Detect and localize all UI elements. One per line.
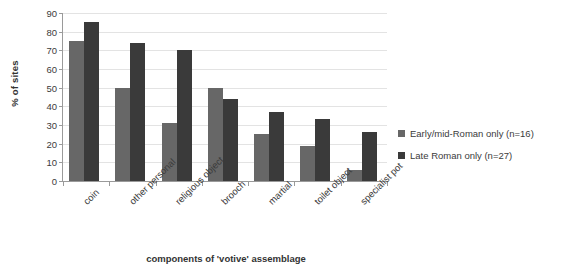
x-axis-label: brooch	[219, 178, 247, 206]
bar	[177, 50, 192, 181]
x-tick-mark	[63, 181, 64, 186]
plot-area: 0102030405060708090 coinother personalre…	[63, 13, 387, 181]
y-tick-label: 60	[46, 64, 57, 75]
legend-label: Late Roman only (n=27)	[410, 150, 512, 161]
y-tick-label: 30	[46, 120, 57, 131]
bar-group	[294, 13, 340, 181]
y-tick-label: 0	[52, 176, 57, 187]
bar-group	[109, 13, 155, 181]
y-tick-label: 50	[46, 82, 57, 93]
bar	[223, 99, 238, 181]
chart-legend: Early/mid-Roman only (n=16)Late Roman on…	[398, 128, 534, 172]
bar-group	[341, 13, 387, 181]
y-tick-label: 40	[46, 101, 57, 112]
bar-chart: % of sites 0102030405060708090 coinother…	[0, 0, 575, 274]
x-axis-label: martial	[266, 179, 294, 207]
legend-label: Early/mid-Roman only (n=16)	[410, 128, 534, 139]
bar	[300, 146, 315, 181]
y-tick-label: 20	[46, 138, 57, 149]
x-tick-mark	[109, 181, 110, 186]
bar	[254, 134, 269, 181]
y-tick-label: 80	[46, 26, 57, 37]
legend-item[interactable]: Early/mid-Roman only (n=16)	[398, 128, 534, 139]
bar-group	[248, 13, 294, 181]
legend-item[interactable]: Late Roman only (n=27)	[398, 150, 534, 161]
x-tick-mark	[294, 181, 295, 186]
bar	[362, 132, 377, 181]
bar	[130, 43, 145, 181]
y-axis-title: % of sites	[9, 39, 20, 129]
bar	[115, 88, 130, 181]
bar-group	[63, 13, 109, 181]
y-tick-label: 70	[46, 45, 57, 56]
bar	[269, 112, 284, 181]
y-tick-label: 90	[46, 8, 57, 19]
legend-swatch-icon	[398, 130, 405, 137]
y-tick-label: 10	[46, 157, 57, 168]
x-tick-mark	[248, 181, 249, 186]
bar-group	[202, 13, 248, 181]
x-axis-title: components of 'votive' assemblage	[0, 253, 452, 264]
bar	[84, 22, 99, 181]
x-axis-label: coin	[81, 187, 101, 207]
bar-group	[156, 13, 202, 181]
bar	[315, 119, 330, 181]
bar	[69, 41, 84, 181]
legend-swatch-icon	[398, 152, 405, 159]
